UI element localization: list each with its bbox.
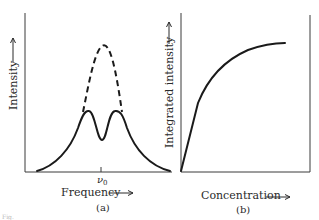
- panel-b-x-label: Concentration: [201, 189, 281, 202]
- panel-b-y-label-text: Integrated intensity: [163, 36, 176, 148]
- figure-caption-fragment: Fig.: [2, 213, 14, 220]
- figure-canvas: Intensity ν0 Frequency (a): [0, 0, 319, 220]
- panel-b-y-label: Integrated intensity: [163, 22, 176, 148]
- figure: Intensity ν0 Frequency (a): [0, 0, 319, 220]
- panel-a-y-label: Intensity: [7, 38, 20, 110]
- panel-a-solid-curve: [37, 111, 170, 171]
- panel-b-curve: [181, 43, 285, 171]
- panel-b: Integrated intensity Concentration (b): [163, 13, 310, 215]
- panel-a-label: (a): [96, 202, 110, 213]
- panel-a-dashed-curve: [83, 45, 122, 112]
- panel-a: Intensity ν0 Frequency (a): [7, 13, 172, 213]
- panel-a-y-label-text: Intensity: [7, 60, 20, 110]
- panel-b-label: (b): [236, 204, 250, 215]
